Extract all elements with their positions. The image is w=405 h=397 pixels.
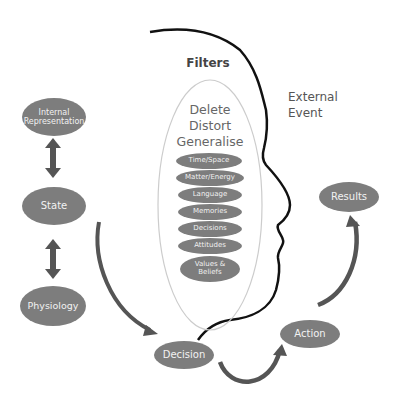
arrow-state-to-decision: [98, 222, 150, 330]
arrow-action-to-results: [318, 222, 357, 305]
node-action: Action: [280, 320, 340, 348]
filter-language: Language: [178, 187, 242, 203]
node-decision: Decision: [154, 341, 214, 369]
node-physiology: Physiology: [20, 286, 86, 326]
filters-title: Filters: [178, 56, 238, 70]
arrow-decision-to-action: [220, 350, 280, 382]
node-results: Results: [319, 182, 379, 212]
filter-values-beliefs: Values & Beliefs: [180, 256, 240, 282]
arrowhead: [346, 215, 360, 227]
filter-time-space: Time/Space: [176, 153, 242, 169]
filter-process-delete: Delete: [170, 102, 250, 117]
filter-process-distort: Distort: [170, 118, 250, 133]
filter-attitudes: Attitudes: [178, 238, 242, 254]
arrowhead: [273, 344, 287, 356]
external-event-label-line2: Event: [288, 106, 322, 120]
filter-decisions: Decisions: [178, 221, 242, 237]
filter-memories: Memories: [178, 204, 242, 220]
filter-matter-energy: Matter/Energy: [176, 170, 244, 186]
node-state: State: [22, 187, 86, 225]
double-arrow-ir-state: [45, 138, 61, 178]
external-event-label-line1: External: [288, 90, 338, 104]
node-internal-representation: Internal Representation: [22, 98, 86, 136]
double-arrow-state-physiology: [45, 239, 61, 279]
filter-process-generalise: Generalise: [164, 134, 256, 149]
